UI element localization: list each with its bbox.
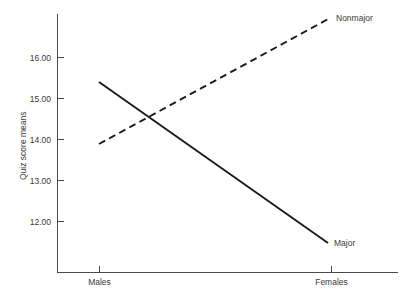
- x-tick-label-males: Males: [88, 277, 111, 287]
- line-chart: 16.00 15.00 14.00 13.00 12.00 Quiz score…: [0, 0, 414, 298]
- y-tick-label-12: 12.00: [30, 217, 52, 227]
- series-label-major: Major: [334, 238, 355, 248]
- chart-container: 16.00 15.00 14.00 13.00 12.00 Quiz score…: [0, 0, 414, 298]
- series-label-nonmajor: Nonmajor: [336, 13, 373, 23]
- y-axis-title: Quiz score means: [18, 112, 28, 181]
- y-tick-label-15: 15.00: [30, 94, 52, 104]
- y-tick-label-16: 16.00: [30, 53, 52, 63]
- x-tick-label-females: Females: [315, 277, 348, 287]
- y-tick-label-13: 13.00: [30, 176, 52, 186]
- series-line-major: [99, 82, 328, 243]
- series-line-nonmajor: [99, 18, 330, 144]
- y-tick-label-14: 14.00: [30, 135, 52, 145]
